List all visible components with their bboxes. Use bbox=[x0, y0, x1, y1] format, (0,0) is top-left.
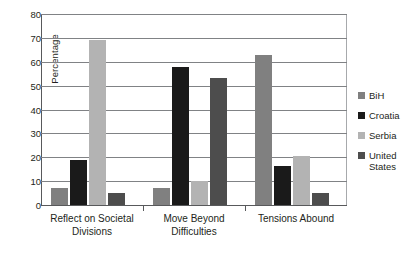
category-separator bbox=[245, 206, 246, 211]
legend-label: BiH bbox=[369, 90, 408, 101]
legend-label: Croatia bbox=[369, 110, 408, 121]
bar bbox=[172, 67, 189, 205]
y-tick-label-30: 30 bbox=[19, 129, 41, 138]
legend-item[interactable]: BiH bbox=[358, 90, 408, 101]
y-axis-ticks: 01020304050607080 bbox=[12, 14, 41, 206]
legend-swatch-icon bbox=[358, 152, 365, 159]
y-tick-label-80: 80 bbox=[19, 10, 41, 19]
bar bbox=[108, 193, 125, 205]
y-tick-label-20: 20 bbox=[19, 153, 41, 162]
grouped-bar-chart: Percentage 01020304050607080 Reflect on … bbox=[0, 0, 408, 253]
bars-layer bbox=[41, 14, 347, 206]
legend: BiHCroatiaSerbiaUnited States bbox=[358, 90, 408, 181]
legend-label: United States bbox=[369, 150, 408, 172]
y-tick-label-70: 70 bbox=[19, 34, 41, 43]
y-tick-label-0: 0 bbox=[19, 201, 41, 210]
category-separator bbox=[143, 206, 144, 211]
bar bbox=[153, 188, 170, 205]
y-tick-label-60: 60 bbox=[19, 58, 41, 67]
x-axis-category-label: Tensions Abound bbox=[245, 212, 347, 225]
bar bbox=[89, 40, 106, 205]
bar bbox=[312, 193, 329, 205]
bar bbox=[70, 160, 87, 205]
bar bbox=[255, 55, 272, 205]
y-tick-label-50: 50 bbox=[19, 82, 41, 91]
legend-swatch-icon bbox=[358, 92, 365, 99]
bar bbox=[274, 166, 291, 205]
bar bbox=[293, 156, 310, 205]
legend-swatch-icon bbox=[358, 132, 365, 139]
bar bbox=[191, 181, 208, 205]
y-tick-label-40: 40 bbox=[19, 106, 41, 115]
bar bbox=[51, 188, 68, 205]
x-axis-category-label: Reflect on SocietalDivisions bbox=[41, 212, 143, 238]
legend-label: Serbia bbox=[369, 130, 408, 141]
x-axis-category-label: Move BeyondDifficulties bbox=[143, 212, 245, 238]
legend-item[interactable]: Serbia bbox=[358, 130, 408, 141]
bar bbox=[210, 78, 227, 205]
y-tick-label-10: 10 bbox=[19, 177, 41, 186]
legend-item[interactable]: Croatia bbox=[358, 110, 408, 121]
legend-swatch-icon bbox=[358, 112, 365, 119]
legend-item[interactable]: United States bbox=[358, 150, 408, 172]
